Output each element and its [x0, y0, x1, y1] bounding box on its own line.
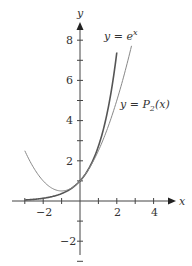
tick-marks — [25, 40, 154, 261]
axes — [12, 30, 170, 255]
chart: x y −2 2 4 8 6 4 2 −2 y = ex y = P2(x) — [0, 0, 192, 266]
y-tick-label: 6 — [66, 74, 73, 87]
y-tick-label: −2 — [60, 235, 76, 248]
x-axis-label: x — [179, 195, 186, 208]
p2-curve-label: y = P2(x) — [119, 98, 170, 113]
x-axis-arrow-icon — [168, 198, 176, 205]
x-tick-label: 4 — [151, 206, 158, 219]
y-tick-label: 8 — [66, 34, 73, 47]
curves — [25, 46, 132, 200]
y-tick-label: 4 — [66, 114, 73, 127]
ex-curve-label: y = ex — [103, 28, 138, 43]
y-axis-label: y — [76, 7, 84, 20]
y-tick-label: 2 — [66, 155, 73, 168]
x-tick-label: −2 — [36, 206, 52, 219]
y-axis-arrow-icon — [77, 22, 84, 30]
x-tick-label: 2 — [114, 206, 121, 219]
